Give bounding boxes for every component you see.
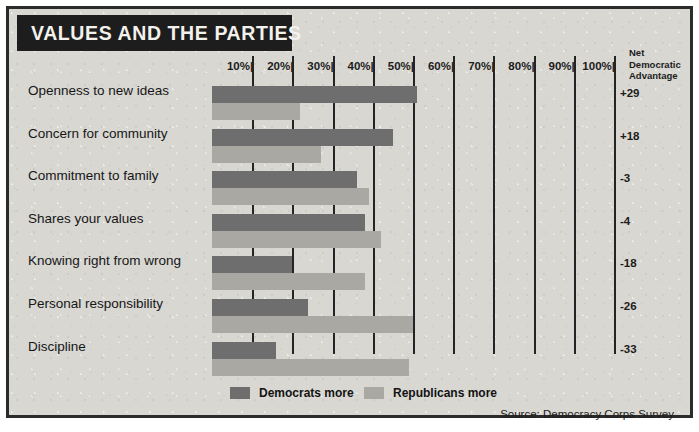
bar-republicans <box>212 146 321 163</box>
net-advantage-value: -3 <box>620 172 630 184</box>
bar-republicans <box>212 273 365 290</box>
net-advantage-value: -18 <box>620 257 637 269</box>
bar-democrats <box>212 299 308 316</box>
net-advantage-value: -26 <box>620 300 637 312</box>
bar-democrats <box>212 129 393 146</box>
category-label: Concern for community <box>28 126 168 141</box>
category-label: Discipline <box>28 339 86 354</box>
bar-democrats <box>212 342 276 359</box>
bar-republicans <box>212 188 369 205</box>
bar-democrats <box>212 214 365 231</box>
category-label: Personal responsibility <box>28 296 163 311</box>
net-advantage-value: -33 <box>620 343 637 355</box>
bar-republicans <box>212 231 381 248</box>
category-label: Shares your values <box>28 211 144 226</box>
bar-republicans <box>212 359 409 376</box>
net-advantage-value: +29 <box>620 87 640 99</box>
bar-democrats <box>212 256 292 273</box>
bar-democrats <box>212 86 417 103</box>
chart-page: VALUES AND THE PARTIES Net Democratic Ad… <box>0 0 699 432</box>
net-advantage-value: -4 <box>620 215 630 227</box>
chart-rows: Openness to new ideas+29Concern for comm… <box>0 0 699 432</box>
net-advantage-value: +18 <box>620 130 640 142</box>
bar-democrats <box>212 171 357 188</box>
category-label: Knowing right from wrong <box>28 253 181 268</box>
category-label: Commitment to family <box>28 168 159 183</box>
bar-republicans <box>212 316 413 333</box>
bar-republicans <box>212 103 300 120</box>
category-label: Openness to new ideas <box>28 83 169 98</box>
